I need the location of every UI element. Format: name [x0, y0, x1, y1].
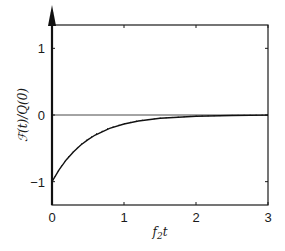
- x-tick-labels: 0123: [48, 210, 271, 225]
- x-tick-label: 2: [192, 210, 199, 225]
- y-tick-label: 1: [38, 41, 45, 56]
- chart: 0123 −101 f2t ℱ(t)/Q(0): [0, 0, 285, 251]
- arrow-up-icon: [48, 5, 56, 26]
- series-exact: [52, 115, 268, 182]
- delta-spike-arrow: [48, 5, 56, 205]
- y-tick-labels: −101: [30, 41, 45, 189]
- x-tick-label: 3: [264, 210, 271, 225]
- series-approx: [52, 115, 268, 182]
- x-tick-label: 0: [48, 210, 55, 225]
- x-axis-label: f2t: [151, 225, 167, 241]
- data-series: [52, 115, 268, 182]
- y-tick-label: −1: [30, 175, 45, 190]
- y-tick-label: 0: [38, 108, 45, 123]
- y-axis-label: ℱ(t)/Q(0): [16, 88, 30, 142]
- x-tick-label: 1: [120, 210, 127, 225]
